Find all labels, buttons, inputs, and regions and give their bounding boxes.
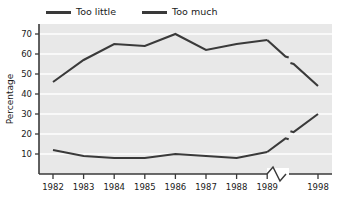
- x-axis-tick-labels-group: 198219831984198519861987198819891998: [42, 182, 329, 192]
- x-axis-tick-label: 1987: [195, 182, 217, 192]
- plot-area-wrapper: 10203040506070 1982198319841985198619871…: [0, 0, 339, 208]
- x-axis-tick-label: 1984: [103, 182, 125, 192]
- x-axis-break-marker: [267, 167, 289, 181]
- chart-container: Too little Too much 10203040506070 19821…: [0, 0, 339, 208]
- x-axis-tick-label: 1983: [73, 182, 95, 192]
- x-axis-tick-label: 1985: [134, 182, 156, 192]
- y-axis-tick-label: 60: [21, 49, 32, 59]
- y-axis-tick-labels-group: 10203040506070: [21, 29, 32, 159]
- y-axis-tick-label: 20: [21, 129, 32, 139]
- y-axis-tick-label: 30: [21, 109, 32, 119]
- y-axis-tick-label: 70: [21, 29, 32, 39]
- y-axis-tick-label: 10: [21, 149, 32, 159]
- line-chart-svg: 10203040506070 1982198319841985198619871…: [0, 0, 339, 208]
- y-axis-title: Percentage: [5, 73, 15, 124]
- x-axis-tick-label: 1988: [226, 182, 248, 192]
- x-axis-tick-label: 1989: [256, 182, 278, 192]
- x-axis-tick-label: 1986: [165, 182, 187, 192]
- y-axis-tick-label: 50: [21, 69, 32, 79]
- x-axis-tick-label: 1982: [42, 182, 64, 192]
- y-axis-tick-label: 40: [21, 89, 32, 99]
- plot-background: [39, 24, 332, 174]
- x-axis-tick-label: 1998: [307, 182, 329, 192]
